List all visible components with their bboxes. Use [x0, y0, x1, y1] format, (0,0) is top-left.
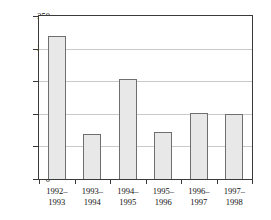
x-tick-mark — [146, 180, 147, 184]
bar-slot — [217, 16, 253, 179]
bar[interactable] — [190, 113, 208, 179]
bar-series — [39, 16, 252, 179]
bar-slot — [181, 16, 217, 179]
bar[interactable] — [119, 79, 137, 179]
x-tick-mark — [217, 180, 218, 184]
x-tick-mark — [75, 180, 76, 184]
bar-slot — [75, 16, 111, 179]
bar[interactable] — [83, 134, 101, 179]
bar-slot — [110, 16, 146, 179]
x-tick-label: 1997–1998 — [213, 186, 255, 207]
x-tick-label-line: 1998 — [213, 197, 255, 208]
bar-slot — [39, 16, 75, 179]
x-tick-mark — [110, 180, 111, 184]
x-tick-label-line: 1997– — [213, 186, 255, 197]
bar-chart: Percent of normal 050100150200250 1992–1… — [0, 0, 271, 220]
bar[interactable] — [154, 132, 172, 179]
x-tick-mark — [252, 180, 253, 184]
x-tick-mark — [39, 180, 40, 184]
bar-slot — [146, 16, 182, 179]
x-tick-mark — [181, 180, 182, 184]
bar[interactable] — [48, 36, 66, 179]
bar[interactable] — [225, 114, 243, 179]
